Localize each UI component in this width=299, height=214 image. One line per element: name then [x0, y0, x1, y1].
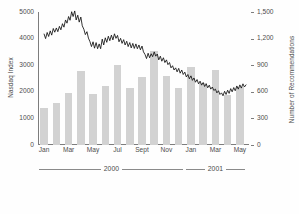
y-axis-right-tick-label: 1,200	[257, 35, 287, 42]
y-axis-right-tick-label: 1,500	[257, 9, 287, 16]
y-axis-right-tick-mark	[251, 92, 254, 93]
y-axis-left-tick-label: 2000	[8, 88, 34, 95]
y-axis-right-title: Number of Recommendations	[288, 25, 295, 135]
year-bracket-rule-left	[186, 169, 205, 170]
y-axis-right-tick-label: 900	[257, 62, 287, 69]
y-axis-right-tick-mark	[251, 145, 254, 146]
nasdaq-recommendations-chart: Nasdaq Index Number of Recommendations 0…	[0, 0, 299, 214]
y-axis-left-tick-label: 4000	[8, 35, 34, 42]
x-axis-tick-labels: JanMarMayJulSeptNovJanMarMay	[38, 147, 246, 159]
y-axis-right-tick-label: 300	[257, 115, 287, 122]
y-axis-left-tick-label: 3000	[8, 62, 34, 69]
y-axis-right-tick-label: 600	[257, 88, 287, 95]
year-bracket-label: 2000	[104, 166, 119, 173]
y-axis-right-tick-mark	[251, 118, 254, 119]
y-axis-left-tick-label: 5000	[8, 9, 34, 16]
year-bracket-rule-left	[39, 169, 100, 170]
y-axis-right-tick-mark	[251, 39, 254, 40]
x-axis-tick-label: May	[225, 147, 255, 154]
year-bracket: 2001	[186, 166, 244, 173]
y-axis-right-tick-mark	[251, 65, 254, 66]
year-bracket-rule-right	[226, 169, 245, 170]
year-bracket: 2000	[39, 166, 183, 173]
year-bracket-rule-right	[122, 169, 183, 170]
y-axis-right-tick-mark	[251, 12, 254, 13]
y-axis-left-tick-label: 1000	[8, 115, 34, 122]
y-axis-left-title: Nasdaq Index	[7, 30, 14, 126]
year-bracket-label: 2001	[208, 166, 223, 173]
line-series-nasdaq-index	[38, 12, 246, 145]
y-axis-right-tick-label: 0	[257, 142, 287, 149]
